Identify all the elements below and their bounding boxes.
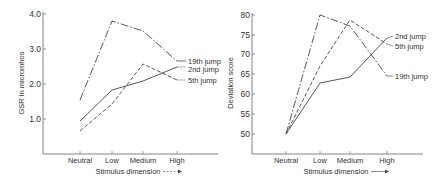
right-series-labels: 2nd jump 5th jump 19th jump (395, 32, 428, 81)
left-xtick-label: Low (105, 156, 119, 165)
left-chart: 4.0 3.0 2.0 1.0 GSR in micromhos Neutral… (17, 9, 221, 176)
left-xtick-label: Medium (130, 156, 157, 165)
left-label-2nd-jump: 2nd jump (188, 65, 219, 74)
left-series-19th-jump (80, 21, 177, 100)
right-ytick-label: 70 (241, 49, 251, 59)
right-label-2nd-jump: 2nd jump (395, 32, 426, 41)
right-chart: 80 75 70 65 60 55 50 Deviation score Neu… (226, 10, 428, 176)
left-y-ticks: 4.0 3.0 2.0 1.0 (29, 9, 46, 124)
right-ytick-label: 65 (241, 69, 251, 79)
left-ytick-label: 1.0 (29, 114, 41, 124)
right-xtick-label: Medium (337, 156, 364, 165)
right-ytick-label: 55 (241, 109, 251, 119)
right-x-ticks: Neutral Low Medium High (274, 151, 395, 165)
chart-svg: 4.0 3.0 2.0 1.0 GSR in micromhos Neutral… (0, 0, 443, 185)
left-series-2nd-jump (80, 67, 177, 121)
right-ytick-label: 50 (241, 129, 251, 139)
left-y-axis-label: GSR in micromhos (17, 51, 26, 114)
right-ytick-label: 60 (241, 89, 251, 99)
left-ytick-label: 2.0 (29, 79, 41, 89)
right-label-5th-jump: 5th jump (395, 42, 424, 51)
right-ytick-label: 75 (241, 30, 251, 40)
left-xtick-label: Neutral (68, 156, 93, 165)
right-xtick-label: Low (313, 156, 327, 165)
left-x-arrow-icon (163, 170, 182, 174)
left-ytick-label: 3.0 (29, 44, 41, 54)
right-xtick-label: Neutral (274, 156, 299, 165)
right-series-2nd-jump (286, 38, 387, 134)
left-series-5th-jump (80, 64, 177, 131)
left-x-ticks: Neutral Low Medium High (68, 151, 185, 165)
figure: 4.0 3.0 2.0 1.0 GSR in micromhos Neutral… (0, 0, 443, 185)
left-ytick-label: 4.0 (29, 9, 41, 19)
right-y-axis-label: Deviation score (226, 57, 235, 109)
right-ytick-label: 80 (241, 10, 251, 20)
right-x-axis-label: Stimulus dimension (303, 167, 368, 176)
right-series-5th-jump (286, 20, 387, 134)
right-xtick-label: High (379, 156, 394, 165)
right-label-19th-jump: 19th jump (395, 72, 428, 81)
left-series-labels: 19th jump 2nd jump 5th jump (188, 57, 221, 86)
left-label-5th-jump: 5th jump (188, 76, 217, 85)
left-x-axis-label: Stimulus dimension (95, 167, 160, 176)
right-series-19th-jump (286, 15, 387, 134)
right-y-ticks: 80 75 70 65 60 55 50 (241, 10, 255, 139)
left-xtick-label: High (169, 156, 184, 165)
right-x-arrow-icon (371, 170, 389, 174)
